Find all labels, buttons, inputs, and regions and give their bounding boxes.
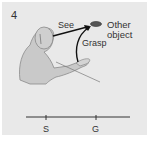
other-object-icon [91,22,102,27]
other-object-label: Other object [107,20,147,40]
tick-label-g: G [92,124,99,134]
timeline-axis [26,115,130,120]
other-object-label-line2: object [107,30,147,40]
grasp-label: Grasp [82,38,107,48]
see-label: See [58,20,74,30]
panel-number: 4 [11,9,17,21]
tick-label-s: S [43,124,49,134]
monkey-illustration [19,27,100,84]
